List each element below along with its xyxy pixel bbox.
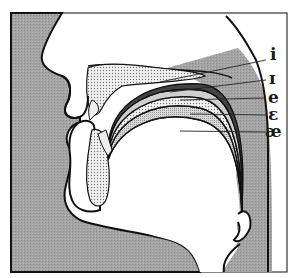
label-vowel-ae: æ [265,123,282,140]
label-vowel-I: ɪ [269,70,275,87]
label-vowel-i: i [270,46,276,63]
sagittal-section-drawing [0,0,300,278]
vowel-diagram: i ɪ e ɛ æ [0,0,300,278]
